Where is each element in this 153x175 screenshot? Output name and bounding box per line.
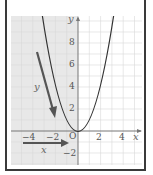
x-tick-4: 4: [119, 132, 125, 142]
x-tick-neg2: −2: [46, 132, 59, 142]
x-axis-label: x: [133, 131, 139, 142]
y-tick-neg2: −2: [63, 148, 76, 158]
x-tick-2: 2: [96, 132, 102, 142]
x-tick-neg4: −4: [22, 132, 36, 142]
origin-label: O: [69, 131, 76, 141]
y-tick-8: 8: [69, 37, 75, 47]
y-arrow-label: y: [33, 81, 40, 92]
x-arrow-label: x: [41, 144, 47, 155]
y-tick-4: 4: [69, 81, 75, 91]
y-axis-label: y: [67, 13, 74, 24]
y-tick-6: 6: [69, 59, 75, 69]
y-tick-2: 2: [69, 103, 75, 113]
parabola-graph: y x O 8 6 4 2 −2 −4 −2 2 4 y x: [0, 0, 153, 175]
